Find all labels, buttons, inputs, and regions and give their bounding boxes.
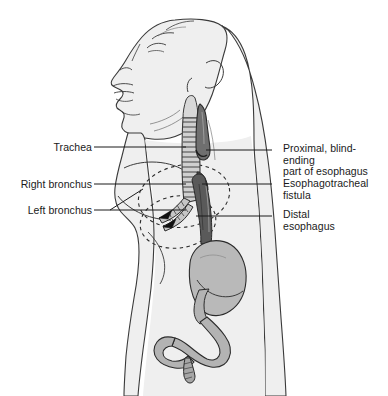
label-left-bronchus: Left bronchus <box>2 205 92 217</box>
head-profile <box>111 19 227 139</box>
esophageal-atresia-figure: Trachea Right bronchus Left bronchus Pro… <box>0 0 388 396</box>
proximal-esophageal-pouch <box>196 104 210 160</box>
label-trachea: Trachea <box>30 142 92 154</box>
label-esophagotracheal-fistula: Esophagotracheal fistula <box>283 178 387 201</box>
label-right-bronchus: Right bronchus <box>2 179 92 191</box>
label-distal-esophagus: Distal esophagus <box>283 209 387 232</box>
label-proximal-esophagus: Proximal, blind-ending part of esophagus <box>283 143 387 178</box>
